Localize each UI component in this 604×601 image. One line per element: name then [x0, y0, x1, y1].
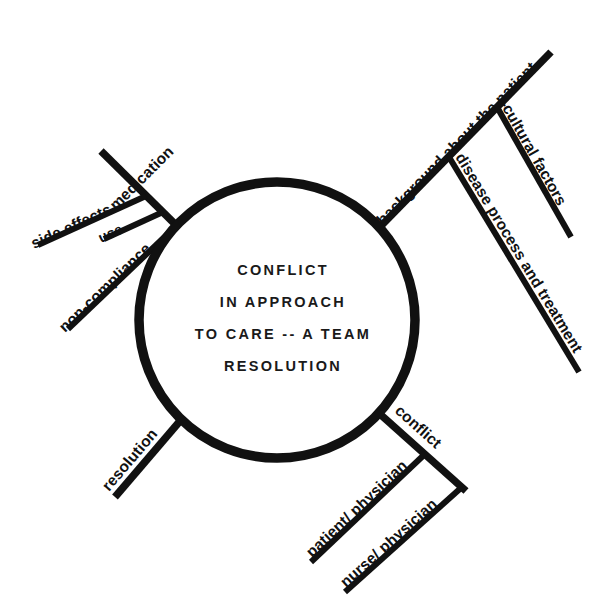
- branch-label-disease-process-and-treatment: disease process and treatment: [452, 150, 586, 356]
- fishbone-diagram: medication side effects use non-complian…: [0, 0, 604, 601]
- branch-group-resolution: resolution: [98, 421, 180, 497]
- hub-text-line-4: RESOLUTION: [224, 358, 342, 374]
- hub-text-line-3: TO CARE -- A TEAM: [195, 326, 371, 342]
- hub-text-line-1: CONFLICT: [237, 262, 329, 278]
- branch-label-use: use: [96, 221, 126, 246]
- center-circle: [139, 182, 415, 458]
- diagram-canvas: medication side effects use non-complian…: [0, 0, 604, 601]
- hub-text-line-2: IN APPROACH: [220, 294, 346, 310]
- branch-label-cultural-factors: cultural factors: [499, 101, 570, 208]
- branch-label-medication: medication: [106, 143, 177, 214]
